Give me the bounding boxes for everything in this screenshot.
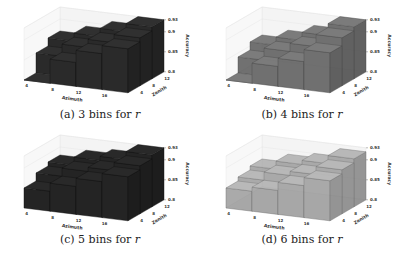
y-tick: 12 (366, 204, 372, 209)
z-tick: 0.9 (370, 29, 377, 34)
z-axis-label: Accuracy (387, 162, 392, 185)
z-tick: 0.8 (168, 69, 175, 74)
y-tick: 8 (152, 83, 155, 88)
caption-text: (d) 6 bins for (261, 233, 337, 246)
z-tick: 0.85 (168, 49, 178, 54)
x-tick: 12 (76, 218, 82, 223)
y-tick: 8 (354, 211, 357, 216)
x-tick: 8 (51, 87, 54, 92)
z-tick: 0.8 (370, 197, 377, 202)
x-tick: 4 (227, 83, 230, 88)
z-tick: 0.85 (370, 177, 380, 182)
bar (102, 39, 140, 93)
x-tick: 12 (278, 218, 284, 223)
bar (304, 171, 342, 221)
caption: (b) 4 bins for r (202, 108, 402, 121)
z-tick: 0.93 (370, 145, 380, 150)
x-tick: 12 (76, 90, 82, 95)
caption-var: r (337, 108, 342, 121)
x-tick: 8 (253, 215, 256, 220)
caption: (c) 5 bins for r (0, 233, 200, 246)
z-tick: 0.8 (370, 69, 377, 74)
panel-b: 48121648120.80.850.90.93AzimuthZenithAcc… (202, 0, 402, 127)
z-axis-label: Accuracy (185, 162, 190, 185)
caption-var: r (135, 233, 140, 246)
x-tick: 8 (51, 215, 54, 220)
bar3d-chart: 48121648120.80.850.90.93AzimuthZenithAcc… (0, 128, 200, 238)
y-tick: 4 (342, 90, 345, 95)
caption: (a) 3 bins for r (0, 108, 200, 121)
z-axis-label: Accuracy (387, 34, 392, 57)
x-tick: 16 (102, 93, 108, 98)
bar3d-chart: 48121648120.80.850.90.93AzimuthZenithAcc… (0, 0, 200, 110)
bar3d-chart: 48121648120.80.850.90.93AzimuthZenithAcc… (202, 0, 402, 110)
x-tick: 4 (25, 211, 28, 216)
z-axis-label: Accuracy (185, 34, 190, 57)
caption-text: (a) 3 bins for (60, 108, 135, 121)
x-axis-label: Azimuth (62, 95, 83, 103)
y-tick: 4 (342, 218, 345, 223)
caption-text: (c) 5 bins for (60, 233, 135, 246)
y-tick: 12 (164, 204, 170, 209)
z-tick: 0.93 (370, 17, 380, 22)
z-tick: 0.9 (168, 157, 175, 162)
x-tick: 8 (253, 87, 256, 92)
panel-c: 48121648120.80.850.90.93AzimuthZenithAcc… (0, 128, 200, 255)
y-tick: 4 (140, 90, 143, 95)
y-tick: 8 (152, 211, 155, 216)
y-tick: 12 (366, 76, 372, 81)
z-tick: 0.85 (370, 49, 380, 54)
caption-var: r (337, 233, 342, 246)
x-tick: 16 (304, 221, 310, 226)
bar (304, 43, 342, 93)
z-tick: 0.85 (168, 177, 178, 182)
bar (102, 167, 140, 221)
z-tick: 0.8 (168, 197, 175, 202)
x-tick: 4 (25, 83, 28, 88)
caption-text: (b) 4 bins for (261, 108, 337, 121)
panel-a: 48121648120.80.850.90.93AzimuthZenithAcc… (0, 0, 200, 127)
z-tick: 0.93 (168, 17, 178, 22)
x-axis-label: Azimuth (264, 223, 285, 231)
x-tick: 4 (227, 211, 230, 216)
x-axis-label: Azimuth (62, 223, 83, 231)
y-tick: 8 (354, 83, 357, 88)
z-tick: 0.9 (370, 157, 377, 162)
x-tick: 16 (102, 221, 108, 226)
caption-var: r (135, 108, 140, 121)
x-tick: 12 (278, 90, 284, 95)
z-tick: 0.9 (168, 29, 175, 34)
x-tick: 16 (304, 93, 310, 98)
x-axis-label: Azimuth (264, 95, 285, 103)
z-tick: 0.93 (168, 145, 178, 150)
bar3d-chart: 48121648120.80.850.90.93AzimuthZenithAcc… (202, 128, 402, 238)
y-tick: 12 (164, 76, 170, 81)
y-tick: 4 (140, 218, 143, 223)
panel-d: 48121648120.80.850.90.93AzimuthZenithAcc… (202, 128, 402, 255)
caption: (d) 6 bins for r (202, 233, 402, 246)
